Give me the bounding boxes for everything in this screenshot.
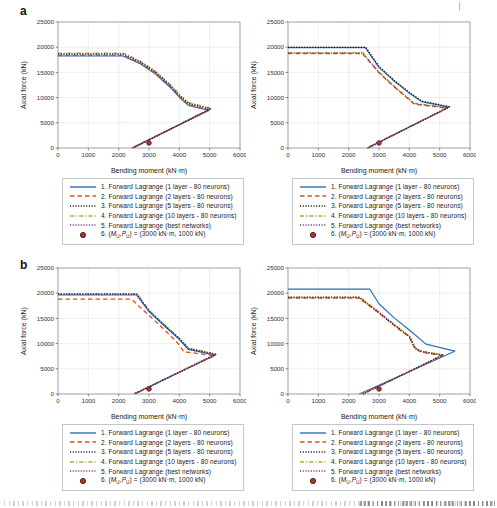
legend-line-swatch-icon [299, 458, 327, 466]
legend-swatch-svg [69, 231, 97, 239]
series-2-line [58, 55, 209, 148]
legend-label-6: 6. (MU,PU) = (3000 kN·m, 1000 kN) [101, 230, 205, 239]
x-tick-label: 5000 [433, 397, 447, 404]
legend-swatch-svg [299, 221, 327, 229]
x-tick-label: 5000 [203, 397, 217, 404]
legend-label-5: 5. Forward Lagrange (best networks) [331, 222, 441, 229]
legend-item-5: 5. Forward Lagrange (best networks) [299, 220, 467, 230]
legend-line-swatch-icon [299, 448, 327, 456]
legend-label-2: 2. Forward Lagrange (2 layers - 80 neuro… [331, 439, 463, 446]
x-axis-label: Bending moment (kN·m) [111, 167, 187, 175]
legend-label-6: 6. (MU,PU) = (3000 kN·m, 1000 kN) [101, 476, 205, 485]
x-tick-label: 0 [286, 151, 290, 158]
x-axis-label: Bending moment (kN·m) [111, 413, 187, 421]
legend-item-4: 4. Forward Lagrange (10 layers - 80 neur… [299, 457, 467, 467]
y-tick-label: 10000 [37, 340, 55, 347]
legend-line-swatch-icon [69, 192, 97, 200]
design-point-marker [147, 387, 152, 392]
legend-item-3: 3. Forward Lagrange (5 layers - 80 neuro… [299, 201, 467, 211]
series-2-line [288, 54, 447, 149]
legend-line-swatch-icon [69, 438, 97, 446]
chart-panel-b-left: 0100020003000400050006000050001000015000… [14, 256, 254, 491]
y-tick-label: 25000 [267, 264, 285, 271]
y-tick-label: 10000 [267, 340, 285, 347]
chart-panel-a-left: 0100020003000400050006000050001000015000… [14, 10, 254, 245]
legend-item-2: 2. Forward Lagrange (2 layers - 80 neuro… [299, 192, 467, 202]
legend-line-swatch-icon [69, 429, 97, 437]
legend-a-left: 1. Forward Lagrange (1 layer - 80 neuron… [62, 178, 244, 245]
legend-item-3: 3. Forward Lagrange (5 layers - 80 neuro… [69, 201, 237, 211]
x-tick-label: 1000 [311, 151, 325, 158]
legend-label-1: 1. Forward Lagrange (1 layer - 80 neuron… [101, 183, 230, 190]
y-tick-label: 25000 [267, 18, 285, 25]
legend-label-5: 5. Forward Lagrange (best networks) [101, 222, 211, 229]
y-tick-label: 20000 [37, 43, 55, 50]
legend-swatch-svg [299, 212, 327, 220]
legend-swatch-svg [69, 467, 97, 475]
legend-item-3: 3. Forward Lagrange (5 layers - 80 neuro… [299, 447, 467, 457]
legend-item-6: 6. (MU,PU) = (3000 kN·m, 1000 kN) [69, 476, 237, 486]
legend-line-swatch-icon [69, 183, 97, 191]
legend-item-3: 3. Forward Lagrange (5 layers - 80 neuro… [69, 447, 237, 457]
series-1-line [288, 289, 455, 394]
x-tick-label: 0 [56, 397, 60, 404]
legend-item-4: 4. Forward Lagrange (10 layers - 80 neur… [299, 211, 467, 221]
y-axis-label: Axial force (kN) [250, 61, 258, 109]
y-axis-label: Axial force (kN) [20, 61, 28, 109]
legend-swatch-svg [299, 429, 327, 437]
x-tick-label: 3000 [372, 151, 386, 158]
legend-label-1: 1. Forward Lagrange (1 layer - 80 neuron… [331, 183, 460, 190]
marker-circle-icon [310, 478, 315, 483]
legend-line-swatch-icon [299, 202, 327, 210]
legend-line-swatch-icon [69, 448, 97, 456]
legend-swatch-svg [299, 231, 327, 239]
x-tick-label: 4000 [172, 151, 186, 158]
legend-line-swatch-icon [299, 467, 327, 475]
legend-label-4: 4. Forward Lagrange (10 layers - 80 neur… [331, 212, 467, 219]
legend-line-swatch-icon [299, 429, 327, 437]
x-tick-label: 3000 [372, 397, 386, 404]
legend-label-2: 2. Forward Lagrange (2 layers - 80 neuro… [101, 439, 233, 446]
interaction-diagram-b-left: 0100020003000400050006000050001000015000… [14, 256, 246, 422]
legend-item-6: 6. (MU,PU) = (3000 kN·m, 1000 kN) [69, 230, 237, 240]
legend-label-4: 4. Forward Lagrange (10 layers - 80 neur… [101, 212, 237, 219]
legend-line-swatch-icon [299, 192, 327, 200]
interaction-diagram-a-right: 0100020003000400050006000050001000015000… [244, 10, 476, 176]
x-tick-label: 5000 [203, 151, 217, 158]
legend-swatch-svg [69, 448, 97, 456]
y-tick-label: 10000 [37, 94, 55, 101]
x-tick-label: 4000 [172, 397, 186, 404]
y-tick-label: 0 [51, 144, 55, 151]
legend-item-2: 2. Forward Lagrange (2 layers - 80 neuro… [299, 438, 467, 448]
legend-line-swatch-icon [299, 183, 327, 191]
interaction-diagram-b-right: 0100020003000400050006000050001000015000… [244, 256, 476, 422]
legend-label-5: 5. Forward Lagrange (best networks) [101, 468, 211, 475]
series-4-line [288, 53, 448, 149]
legend-swatch-svg [299, 438, 327, 446]
y-tick-label: 5000 [40, 365, 54, 372]
legend-swatch-svg [69, 429, 97, 437]
y-tick-label: 0 [281, 144, 285, 151]
series-4-line [58, 53, 211, 148]
legend-marker-icon [69, 231, 97, 239]
x-tick-label: 2000 [112, 397, 126, 404]
legend-swatch-svg [69, 212, 97, 220]
legend-swatch-svg [299, 458, 327, 466]
series-2-line [58, 299, 214, 394]
marker-circle-icon [80, 232, 85, 237]
y-tick-label: 0 [281, 390, 285, 397]
legend-line-swatch-icon [69, 202, 97, 210]
design-point-marker [377, 141, 382, 146]
legend-swatch-svg [299, 183, 327, 191]
interaction-diagram-a-left: 0100020003000400050006000050001000015000… [14, 10, 246, 176]
y-tick-label: 15000 [267, 69, 285, 76]
series-3-line [58, 54, 210, 148]
legend-line-swatch-icon [299, 212, 327, 220]
legend-swatch-svg [299, 467, 327, 475]
legend-item-5: 5. Forward Lagrange (best networks) [299, 466, 467, 476]
legend-item-1: 1. Forward Lagrange (1 layer - 80 neuron… [69, 182, 237, 192]
legend-line-swatch-icon [299, 438, 327, 446]
series-5-line [288, 297, 443, 394]
x-axis-label: Bending moment (kN·m) [341, 413, 417, 421]
series-4-line [288, 297, 443, 394]
